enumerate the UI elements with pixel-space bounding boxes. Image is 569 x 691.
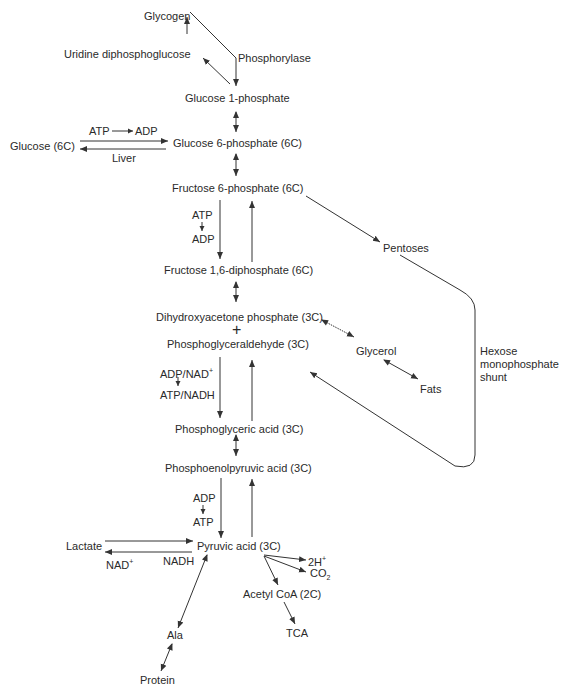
node-acetyl-coa: Acetyl CoA (2C)	[243, 588, 321, 601]
cofactor-atp-nadh: ATP/NADH	[160, 389, 215, 402]
label-hexose: Hexose	[480, 345, 517, 358]
product-co2: CO2	[310, 567, 330, 584]
cofactor-nad-text: NAD	[106, 559, 129, 571]
subscript: 2	[327, 574, 331, 581]
label-liver: Liver	[112, 152, 136, 165]
node-fructose-6-phosphate: Fructose 6-phosphate (6C)	[172, 182, 303, 195]
node-fats: Fats	[420, 383, 441, 396]
superscript: +	[129, 558, 133, 565]
cofactor-adp-nad: ADP/NAD+	[160, 364, 213, 381]
node-fructose-1-6-diphosphate: Fructose 1,6-diphosphate (6C)	[164, 264, 313, 277]
cofactor-atp: ATP	[89, 125, 110, 138]
node-glucose: Glucose (6C)	[10, 140, 75, 153]
node-pentoses: Pentoses	[383, 242, 429, 255]
superscript: +	[209, 367, 213, 374]
cofactor-nadh: NADH	[163, 555, 194, 568]
node-glucose-1-phosphate: Glucose 1-phosphate	[185, 92, 290, 105]
cofactor-adp-2: ADP	[192, 233, 215, 246]
cofactor-atp-2: ATP	[192, 209, 213, 222]
node-pyruvic-acid: Pyruvic acid (3C)	[197, 540, 281, 553]
node-lactate: Lactate	[66, 540, 102, 553]
glycolysis-diagram: Glycogen Uridine diphosphoglucose Phosph…	[0, 0, 569, 691]
product-co2-text: CO	[310, 567, 327, 579]
superscript: +	[322, 555, 326, 562]
enzyme-phosphorylase: Phosphorylase	[238, 52, 311, 65]
node-phosphoglyceraldehyde: Phosphoglyceraldehyde (3C)	[167, 338, 309, 351]
label-shunt: shunt	[480, 371, 507, 384]
node-phosphoglyceric-acid: Phosphoglyceric acid (3C)	[175, 423, 303, 436]
product-2h-text: 2H	[308, 556, 322, 568]
node-glycerol: Glycerol	[356, 345, 396, 358]
plus-sign: +	[232, 322, 241, 338]
node-glycogen: Glycogen	[144, 10, 190, 23]
label-monophosphate: monophosphate	[480, 358, 559, 371]
node-ala: Ala	[167, 629, 183, 642]
node-phosphoenolpyruvic-acid: Phosphoenolpyruvic acid (3C)	[165, 462, 312, 475]
cofactor-nad: NAD+	[106, 555, 133, 572]
cofactor-adp-3: ADP	[193, 492, 216, 505]
node-tca: TCA	[286, 627, 308, 640]
cofactor-atp-3: ATP	[193, 516, 214, 529]
cofactor-adp-nad-text: ADP/NAD	[160, 368, 209, 380]
cofactor-adp: ADP	[135, 125, 158, 138]
node-glucose-6-phosphate: Glucose 6-phosphate (6C)	[173, 137, 302, 150]
node-protein: Protein	[140, 674, 175, 687]
node-uridine-diphosphoglucose: Uridine diphosphoglucose	[64, 48, 191, 61]
